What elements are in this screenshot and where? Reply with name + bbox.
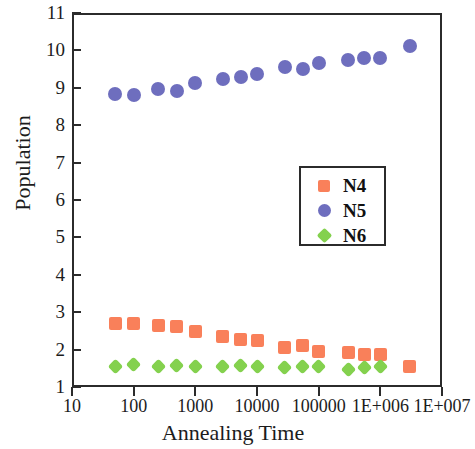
data-point-n5: [216, 72, 230, 86]
legend-swatch-wrap: [307, 230, 341, 241]
y-tick-label: 4: [20, 265, 65, 284]
data-point-n4: [234, 333, 247, 346]
data-point-n4: [342, 346, 355, 359]
legend-label: N4: [343, 176, 366, 195]
data-point-n5: [403, 39, 417, 53]
y-tick: [72, 162, 81, 164]
data-point-n4: [296, 339, 309, 352]
x-tick: [256, 387, 258, 396]
y-tick: [72, 87, 81, 89]
y-tick: [72, 12, 81, 14]
data-point-n4: [403, 360, 416, 373]
data-point-n4: [312, 345, 325, 358]
y-tick-label: 2: [20, 340, 65, 359]
data-point-n5: [127, 88, 141, 102]
legend-label: N5: [343, 201, 366, 220]
data-point-n4: [358, 348, 371, 361]
legend-item-n6[interactable]: N6: [301, 223, 384, 248]
data-point-n4: [251, 334, 264, 347]
data-point-n4: [109, 317, 122, 330]
y-axis-title: Population: [10, 78, 36, 248]
data-point-n5: [357, 51, 371, 65]
x-axis-title: Annealing Time: [0, 420, 466, 446]
diamond-marker-icon: [316, 228, 332, 244]
data-point-n4: [189, 325, 202, 338]
circle-marker-icon: [318, 204, 331, 217]
x-tick: [133, 387, 135, 396]
data-point-n4: [152, 319, 165, 332]
y-tick-label: 10: [20, 40, 65, 59]
x-tick: [379, 387, 381, 396]
data-point-n4: [216, 330, 229, 343]
y-tick: [72, 311, 81, 313]
y-tick: [72, 386, 81, 388]
data-point-n5: [278, 60, 292, 74]
data-point-n5: [250, 67, 264, 81]
legend-item-n5[interactable]: N5: [301, 198, 384, 223]
x-tick: [71, 387, 73, 396]
legend-item-n4[interactable]: N4: [301, 173, 384, 198]
y-tick-label: 3: [20, 302, 65, 321]
y-tick-label: 1: [20, 377, 65, 396]
y-tick: [72, 236, 81, 238]
legend-label: N6: [343, 226, 366, 245]
legend-swatch-wrap: [307, 204, 341, 217]
x-tick-label: 1E+007: [402, 397, 475, 415]
data-point-n5: [312, 56, 326, 70]
y-tick: [72, 274, 81, 276]
data-point-n4: [278, 341, 291, 354]
y-tick-label: 11: [20, 3, 65, 22]
data-point-n5: [296, 62, 310, 76]
y-tick: [72, 199, 81, 201]
square-marker-icon: [318, 180, 330, 192]
y-tick: [72, 49, 81, 51]
data-point-n4: [170, 320, 183, 333]
x-tick: [318, 387, 320, 396]
legend-swatch-wrap: [307, 180, 341, 192]
data-point-n4: [127, 317, 140, 330]
y-tick: [72, 124, 81, 126]
chart-legend: N4N5N6: [299, 166, 386, 246]
data-point-n5: [170, 84, 184, 98]
y-tick: [72, 349, 81, 351]
x-tick: [194, 387, 196, 396]
x-tick: [441, 387, 443, 396]
